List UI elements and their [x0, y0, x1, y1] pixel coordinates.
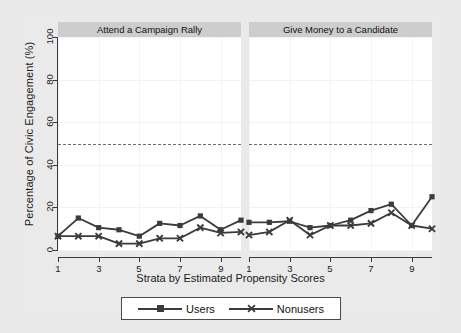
- x-tick-label: 5: [323, 263, 337, 274]
- data-point-square: [238, 218, 243, 223]
- data-point-square: [76, 215, 81, 220]
- x-axis-line: [58, 257, 241, 258]
- data-point-square: [368, 208, 373, 213]
- data-point-x: [388, 210, 394, 216]
- data-point-square: [198, 213, 203, 218]
- chart-legend: Users Nonusers: [121, 297, 341, 320]
- x-tick-mark: [139, 258, 140, 262]
- y-tick-label: 0: [44, 237, 55, 263]
- y-tick-label: 100: [44, 24, 55, 50]
- data-point-square: [348, 218, 353, 223]
- y-axis-title: Percentage of Civic Engagement (%): [23, 19, 35, 249]
- series-line-users: [58, 216, 241, 236]
- x-tick-label: 7: [173, 263, 187, 274]
- x-tick-mark: [412, 258, 413, 262]
- data-point-square: [116, 227, 121, 232]
- x-tick-mark: [290, 258, 291, 262]
- data-point-square: [267, 220, 272, 225]
- x-tick-label: 9: [214, 263, 228, 274]
- legend-label-nonusers: Nonusers: [277, 303, 324, 315]
- data-point-x: [307, 232, 313, 238]
- x-marker-icon: [247, 304, 256, 313]
- x-tick-mark: [58, 258, 59, 262]
- data-point-square: [246, 220, 251, 225]
- y-tick-label: 80: [44, 66, 55, 92]
- x-tick-mark: [371, 258, 372, 262]
- data-point-square: [429, 194, 434, 199]
- series-layer: [58, 37, 241, 251]
- x-tick-label: 7: [364, 263, 378, 274]
- x-axis-title: Strata by Estimated Propensity Scores: [0, 272, 461, 284]
- legend-entry-users: Users: [138, 303, 215, 315]
- x-tick-label: 3: [92, 263, 106, 274]
- data-point-square: [177, 223, 182, 228]
- x-tick-label: 3: [283, 263, 297, 274]
- data-point-square: [96, 225, 101, 230]
- x-tick-mark: [249, 258, 250, 262]
- y-tick-label: 40: [44, 151, 55, 177]
- legend-marker-x-icon: [229, 303, 273, 314]
- x-tick-mark: [180, 258, 181, 262]
- panel-plot-left: [58, 37, 241, 251]
- legend-entry-nonusers: Nonusers: [229, 303, 324, 315]
- panel-plot-right: [249, 37, 432, 251]
- panel-title-left: Attend a Campaign Rally: [58, 22, 241, 37]
- series-line-nonusers: [249, 213, 432, 235]
- chart-figure: Percentage of Civic Engagement (%) 02040…: [0, 0, 461, 333]
- y-tick-label: 60: [44, 109, 55, 135]
- legend-marker-square-icon: [138, 303, 182, 314]
- panel-title-right: Give Money to a Candidate: [249, 22, 432, 37]
- data-point-square: [157, 221, 162, 226]
- data-point-square: [307, 225, 312, 230]
- series-line-users: [249, 197, 432, 228]
- x-tick-label: 9: [405, 263, 419, 274]
- x-tick-label: 5: [132, 263, 146, 274]
- x-tick-mark: [99, 258, 100, 262]
- data-point-square: [137, 234, 142, 239]
- x-tick-mark: [221, 258, 222, 262]
- legend-label-users: Users: [186, 303, 215, 315]
- x-tick-label: 1: [242, 263, 256, 274]
- x-tick-mark: [330, 258, 331, 262]
- data-point-square: [389, 202, 394, 207]
- x-tick-label: 1: [51, 263, 65, 274]
- x-axis-line: [249, 257, 432, 258]
- y-tick-label: 20: [44, 194, 55, 220]
- series-layer: [249, 37, 432, 251]
